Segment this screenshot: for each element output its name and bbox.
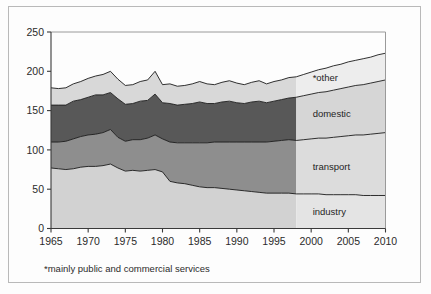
series-label-domestic: domestic: [313, 108, 351, 119]
y-tick-label-100: 100: [26, 144, 44, 156]
series-label-other: *other: [313, 72, 338, 83]
chart-figure: 0501001502002501965197019751980198519901…: [0, 0, 431, 294]
y-tick-label-0: 0: [38, 222, 44, 234]
y-tick-label-150: 150: [26, 104, 44, 116]
footnote-text: *mainly public and commercial services: [44, 263, 210, 274]
x-tick-label-2010: 2010: [374, 235, 398, 247]
x-tick-label-2005: 2005: [337, 235, 361, 247]
y-tick-label-200: 200: [26, 65, 44, 77]
x-tick-label-1995: 1995: [262, 235, 286, 247]
x-tick-label-2000: 2000: [299, 235, 323, 247]
series-label-industry: industry: [313, 206, 347, 217]
x-tick-label-1980: 1980: [151, 235, 175, 247]
x-tick-label-1975: 1975: [114, 235, 138, 247]
x-tick-label-1970: 1970: [76, 235, 100, 247]
x-tick-label-1990: 1990: [225, 235, 249, 247]
x-tick-label-1985: 1985: [188, 235, 212, 247]
stacked-area-chart: 0501001502002501965197019751980198519901…: [0, 0, 431, 294]
y-tick-label-50: 50: [32, 183, 44, 195]
series-label-transport: transport: [313, 161, 351, 172]
y-tick-label-250: 250: [26, 26, 44, 38]
x-tick-label-1965: 1965: [39, 235, 63, 247]
